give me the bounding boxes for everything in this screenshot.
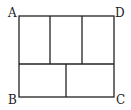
vertex-label-c: C xyxy=(116,93,125,107)
rectangle-diagram: A D B C xyxy=(0,0,131,110)
vertex-label-d: D xyxy=(115,6,125,20)
vertex-label-a: A xyxy=(7,6,17,20)
vertex-label-b: B xyxy=(8,93,17,107)
